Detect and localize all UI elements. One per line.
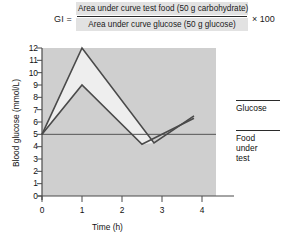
- gi-fraction-numerator: Area under curve test food (50 g carbohy…: [76, 2, 248, 15]
- x-tick-label-0: 0: [37, 205, 47, 215]
- legend-item-glucose: Glucose: [236, 100, 282, 113]
- gi-formula-label: GI =: [54, 14, 72, 24]
- x-tick-label-4: 4: [197, 205, 207, 215]
- gi-formula: GI = Area under curve test food (50 g ca…: [0, 0, 288, 40]
- legend-label-glucose: Glucose: [236, 101, 282, 113]
- gi-fraction: Area under curve test food (50 g carbohy…: [76, 2, 248, 31]
- area-between-curves: [42, 48, 154, 144]
- glycaemic-index-figure: GI = Area under curve test food (50 g ca…: [0, 0, 288, 238]
- gi-formula-multiplier: × 100: [252, 14, 275, 24]
- legend-label-food-line3: test: [236, 153, 282, 163]
- y-axis-ticks: [37, 48, 42, 196]
- x-axis-ticks: [42, 196, 202, 202]
- x-tick-label-2: 2: [117, 205, 127, 215]
- legend-label-food-line1: Food: [236, 131, 282, 143]
- x-tick-label-1: 1: [77, 205, 87, 215]
- x-tick-label-3: 3: [157, 205, 167, 215]
- blood-glucose-chart: Blood glucose (mmol/L) 12 11 10 9 8 7 6 …: [0, 40, 288, 238]
- gi-fraction-bar: [77, 16, 247, 17]
- chart-legend: Glucose Food under test: [236, 40, 288, 180]
- legend-item-food-under-test: Food under test: [236, 130, 282, 163]
- x-axis-title: Time (h): [92, 222, 123, 232]
- gi-fraction-denominator: Area under curve glucose (50 g glucose): [76, 18, 248, 31]
- legend-label-food-line2: under: [236, 143, 282, 153]
